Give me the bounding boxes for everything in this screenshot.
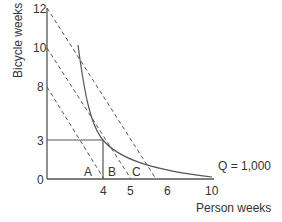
isocost-line-b [47,48,131,179]
label-c: C [132,165,141,179]
isocost-line-c [47,8,156,179]
y-tick-8: 8 [37,80,44,94]
chart: 12 10 8 3 0 4 5 6 10 A B C Q = 1,000 Per… [0,0,282,222]
label-a: A [84,165,92,179]
x-axis-label: Person weeks [196,201,271,215]
x-tick-10: 10 [205,184,219,198]
y-tick-12: 12 [33,2,47,16]
x-tick-4: 4 [100,184,107,198]
x-tick-6: 6 [164,184,171,198]
y-tick-0: 0 [37,173,44,187]
isoquant-label: Q = 1,000 [218,159,271,173]
y-axis-label: Bicycle weeks [11,3,25,78]
x-tick-5: 5 [127,184,134,198]
y-tick-3: 3 [37,134,44,148]
isocost-line-a [47,87,104,179]
isoquant-curve [78,45,212,177]
y-tick-10: 10 [33,41,47,55]
label-b: B [108,165,116,179]
